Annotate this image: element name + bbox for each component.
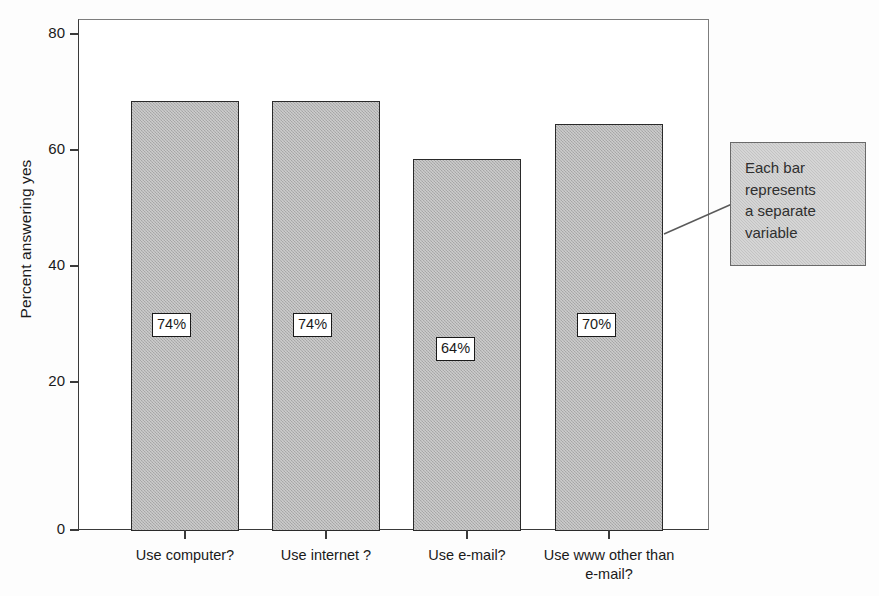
bar-use-internet[interactable]: 74% xyxy=(272,101,380,531)
x-tick-mark xyxy=(608,530,609,539)
bar-use-email[interactable]: 64% xyxy=(413,159,521,531)
y-tick-label: 20 xyxy=(27,372,65,389)
x-tick-label-line2: e-mail? xyxy=(585,566,633,582)
x-tick-label: Use www other than e-mail? xyxy=(524,546,694,584)
bar-use-www-other-than-email[interactable]: 70% xyxy=(555,124,663,531)
callout-line-4: variable xyxy=(745,224,798,241)
callout-line-1: Each bar xyxy=(745,159,805,176)
y-tick-mark xyxy=(70,149,79,150)
x-tick-label-line1: Use computer? xyxy=(136,547,234,563)
x-tick-label-line1: Use www other than xyxy=(544,547,675,563)
y-tick-mark xyxy=(70,529,79,530)
bar-value-label: 74% xyxy=(293,313,332,337)
bar-use-computer[interactable]: 74% xyxy=(131,101,239,531)
plot-area: 80 60 40 20 0 74% 74% 64% 70% xyxy=(78,19,709,530)
y-tick-mark xyxy=(70,33,79,34)
x-tick-mark xyxy=(184,530,185,539)
y-tick-label: 80 xyxy=(27,24,65,41)
x-tick-mark xyxy=(325,530,326,539)
callout-annotation: Each bar represents a separate variable xyxy=(730,142,866,266)
bar-chart-figure: Percent answering yes 80 60 40 20 0 74% xyxy=(0,0,879,596)
callout-line-2: represents xyxy=(745,181,816,198)
y-tick-label: 0 xyxy=(27,520,65,537)
y-tick-label: 40 xyxy=(27,256,65,273)
y-tick-mark xyxy=(70,265,79,266)
x-tick-label-line1: Use e-mail? xyxy=(428,547,505,563)
x-tick-mark xyxy=(466,530,467,539)
callout-leader-line xyxy=(660,198,736,238)
bar-value-label: 64% xyxy=(436,337,475,361)
y-tick-mark xyxy=(70,381,79,382)
callout-line-3: a separate xyxy=(745,202,816,219)
bar-value-label: 70% xyxy=(577,313,616,337)
bar-value-label: 74% xyxy=(152,313,191,337)
y-tick-label: 60 xyxy=(27,140,65,157)
x-tick-label-line1: Use internet ? xyxy=(281,547,371,563)
